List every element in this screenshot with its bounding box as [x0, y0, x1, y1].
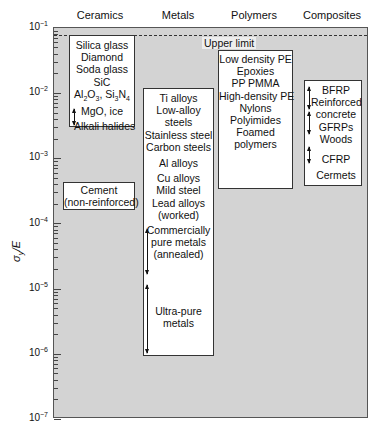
polymer-item: polymers — [219, 138, 292, 150]
y-tick-mark — [54, 292, 58, 293]
metal-item: (annealed) — [144, 248, 213, 260]
y-tick-mark — [54, 257, 58, 258]
composites-box: BFRP Reinforced concrete GFRPs Woods CFR… — [304, 80, 362, 186]
ceramic-item: MgO, ice — [70, 105, 134, 117]
metal-item: Cu alloys — [144, 172, 213, 184]
y-tick-label: 10−1 — [10, 20, 48, 32]
y-tick-mark — [54, 119, 58, 120]
ceramic-item: Al2O3, Si3N4 — [70, 88, 134, 105]
header-metals: Metals — [138, 9, 218, 21]
y-tick-mark — [54, 93, 61, 94]
composite-item: CFRP — [311, 153, 361, 165]
y-tick-label: 10−7 — [10, 411, 48, 423]
y-tick-label: 10−2 — [10, 85, 48, 97]
y-tick-mark — [54, 127, 58, 128]
y-tick-mark — [54, 364, 58, 365]
y-tick-mark — [54, 269, 58, 270]
y-tick-mark — [54, 243, 58, 244]
y-tick-mark — [54, 139, 58, 140]
ceramic-item: Diamond — [70, 51, 134, 63]
composite-item: Woods — [311, 133, 361, 145]
y-tick-mark — [54, 161, 58, 162]
y-tick-mark — [54, 192, 58, 193]
y-tick-mark — [54, 230, 58, 231]
y-tick-mark — [54, 373, 58, 374]
metal-item: Low-alloy — [144, 104, 213, 116]
y-axis-title: σy/E — [10, 241, 25, 262]
range-arrow-icon — [309, 147, 310, 163]
y-tick-mark — [54, 233, 58, 234]
y-tick-mark — [54, 289, 61, 290]
y-tick-mark — [54, 399, 58, 400]
cement-item: (non-reinforced) — [64, 196, 134, 208]
polymer-item: Low density PE — [219, 53, 292, 65]
metal-item: Mild steel — [144, 184, 213, 196]
y-tick-mark — [54, 303, 58, 304]
metal-item: Ultra-pure — [144, 305, 213, 317]
metal-item: (worked) — [144, 209, 213, 221]
y-tick-mark — [54, 47, 58, 48]
polymer-item: Foamed — [219, 126, 292, 138]
header-polymers: Polymers — [214, 9, 294, 21]
y-tick-mark — [54, 113, 58, 114]
y-tick-mark — [54, 62, 58, 63]
y-tick-mark — [54, 103, 58, 104]
plot-area: Upper limit Silica glass Diamond Soda gl… — [53, 27, 368, 418]
cement-item: Cement — [64, 184, 134, 196]
y-tick-mark — [54, 238, 58, 239]
y-tick-mark — [54, 323, 58, 324]
composite-item: BFRP — [311, 84, 361, 96]
ceramic-item: Silica glass — [70, 39, 134, 51]
metal-item: metals — [144, 317, 213, 329]
y-tick-mark — [54, 360, 58, 361]
metal-item: Commercially — [144, 224, 213, 236]
y-tick-mark — [54, 295, 58, 296]
y-tick-mark — [54, 173, 58, 174]
range-arrow-icon — [309, 112, 310, 134]
metal-item: pure metals — [144, 236, 213, 248]
composite-item: concrete — [311, 108, 361, 120]
y-tick-mark — [54, 354, 61, 355]
y-tick-mark — [54, 357, 58, 358]
header-ceramics: Ceramics — [60, 9, 140, 21]
range-arrow-icon — [309, 87, 310, 109]
metal-item: Carbon steels — [144, 141, 213, 153]
y-tick-mark — [54, 42, 58, 43]
y-tick-mark — [54, 31, 58, 32]
polymer-item: Epoxies — [219, 65, 292, 77]
metals-box: Ti alloys Low-alloy steels Stainless ste… — [143, 88, 214, 356]
y-tick-mark — [54, 168, 58, 169]
y-tick-mark — [54, 315, 58, 316]
y-tick-mark — [54, 158, 61, 159]
composite-item: Reinforced — [311, 96, 361, 108]
metal-item: Ti alloys — [144, 92, 213, 104]
ceramic-item: Soda glass — [70, 63, 134, 75]
range-arrow-icon — [147, 285, 148, 353]
metal-item: Lead alloys — [144, 197, 213, 209]
y-tick-mark — [54, 299, 58, 300]
y-tick-label: 10−5 — [10, 281, 48, 293]
y-tick-mark — [54, 388, 58, 389]
ceramic-item: Alkali halides — [70, 120, 134, 132]
polymer-item: PP PMMA — [219, 77, 292, 89]
polymers-box: Low density PE Epoxies PP PMMA High-dens… — [218, 50, 293, 189]
y-tick-mark — [54, 226, 58, 227]
y-tick-mark — [54, 308, 58, 309]
y-tick-mark — [54, 249, 58, 250]
y-tick-mark — [54, 380, 58, 381]
ceramic-item: SiC — [70, 76, 134, 88]
upper-limit-label: Upper limit — [202, 37, 256, 49]
y-tick-label: 10−3 — [10, 150, 48, 162]
metal-item: Stainless steel — [144, 129, 213, 141]
y-tick-mark — [54, 368, 58, 369]
polymer-item: Polyimides — [219, 114, 292, 126]
polymer-item: High-density PE — [219, 90, 292, 102]
y-tick-mark — [54, 73, 58, 74]
metal-item: Al alloys — [144, 157, 213, 169]
y-tick-mark — [54, 223, 61, 224]
y-tick-mark — [54, 178, 58, 179]
y-tick-mark — [54, 419, 61, 420]
y-tick-mark — [54, 204, 58, 205]
y-tick-label: 10−4 — [10, 216, 48, 228]
y-tick-mark — [54, 99, 58, 100]
